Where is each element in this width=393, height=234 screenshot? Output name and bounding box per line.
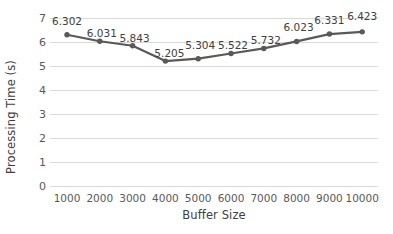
y-axis-tick-label: 1 [24, 156, 46, 169]
y-axis-tick-label: 5 [24, 60, 46, 73]
line-chart: Processing Time (s) 76543210 6.3026.0315… [0, 0, 393, 234]
data-point-label: 5.843 [120, 32, 150, 44]
data-point-label: 6.423 [347, 10, 377, 22]
data-point-marker [97, 39, 102, 44]
x-axis-tick-label: 2000 [86, 192, 113, 204]
data-point-marker [64, 32, 69, 37]
x-axis-tick-label: 8000 [283, 192, 310, 204]
data-point-marker [327, 31, 332, 36]
x-axis-tick-label: 6000 [218, 192, 245, 204]
data-point-label: 6.031 [87, 27, 117, 39]
x-axis-tick-label: 3000 [119, 192, 146, 204]
data-point-marker [163, 58, 168, 63]
data-point-marker [130, 43, 135, 48]
data-point-label: 6.302 [52, 15, 82, 27]
data-point-marker [360, 29, 365, 34]
y-axis-tick-label: 7 [24, 12, 46, 25]
data-point-label: 5.304 [185, 39, 215, 51]
x-axis-tick-label: 1000 [54, 192, 81, 204]
data-point-marker [294, 39, 299, 44]
x-axis-tick-label: 10000 [345, 192, 378, 204]
plot-area: 6.3026.0315.8435.2055.3045.5225.7326.023… [50, 10, 378, 190]
x-axis-tick-labels: 1000200030004000500060007000800090001000… [50, 192, 378, 208]
x-axis-title: Buffer Size [50, 208, 378, 222]
y-axis-tick-label: 4 [24, 84, 46, 97]
x-axis-tick-label: 9000 [316, 192, 343, 204]
x-axis-tick-label: 7000 [250, 192, 277, 204]
y-axis-tick-label: 6 [24, 36, 46, 49]
data-point-marker [261, 46, 266, 51]
data-point-marker [228, 51, 233, 56]
data-point-marker [196, 56, 201, 61]
data-point-label: 6.331 [314, 14, 344, 26]
x-axis-tick-label: 5000 [185, 192, 212, 204]
y-axis-tick-label: 3 [24, 108, 46, 121]
data-point-label: 6.023 [284, 21, 314, 33]
data-point-label: 5.732 [251, 34, 281, 46]
x-axis-tick-label: 4000 [152, 192, 179, 204]
data-point-label: 5.205 [154, 47, 184, 59]
y-axis-tick-label: 2 [24, 132, 46, 145]
y-axis-tick-labels: 76543210 [20, 10, 46, 190]
y-axis-title: Processing Time (s) [0, 0, 22, 234]
y-axis-tick-label: 0 [24, 180, 46, 193]
data-point-label: 5.522 [218, 39, 248, 51]
